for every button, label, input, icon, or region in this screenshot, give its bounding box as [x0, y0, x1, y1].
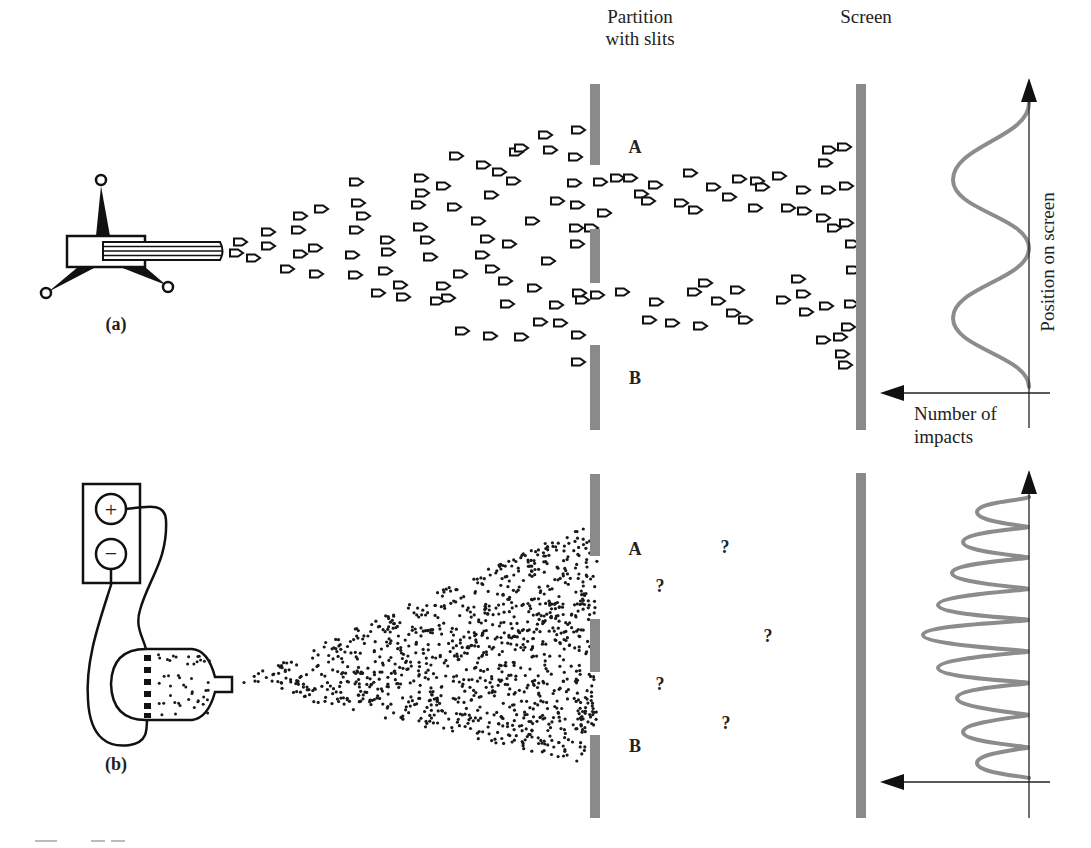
bullet-icon: [819, 160, 832, 167]
bullet-icon: [727, 310, 740, 317]
electron-gun-icon: [111, 649, 232, 720]
minus-icon: −: [105, 541, 117, 566]
battery-icon: + −: [83, 484, 140, 583]
bullet-icon: [635, 191, 648, 198]
slit-a-label: A: [629, 137, 642, 157]
bullet-icon: [349, 272, 362, 279]
bullet-icon: [773, 173, 786, 180]
bullet-icon: [262, 243, 275, 250]
bullet-icon: [571, 241, 584, 248]
bullet-icon: [421, 237, 434, 244]
bullet-icon: [554, 320, 567, 327]
bullet-icon: [412, 202, 425, 209]
bullet-icon: [394, 282, 407, 289]
bullet-icon: [503, 241, 516, 248]
bullet-icon: [817, 215, 830, 222]
screen-bar: [856, 473, 866, 818]
bullet-icon: [310, 271, 323, 278]
bullet-icon: [454, 271, 467, 278]
x-axis-label-line1: Number of: [914, 403, 998, 424]
bullet-icon: [352, 200, 365, 207]
partition-segment: [590, 345, 600, 430]
bullet-icon: [675, 200, 688, 207]
impact-distribution-b: [880, 470, 1050, 818]
question-mark: ?: [764, 626, 773, 646]
x-axis-label-line2: impacts: [914, 426, 973, 447]
bullet-icon: [572, 127, 585, 134]
bullet-icon: [723, 194, 736, 201]
y-axis-label: Position on screen: [1037, 192, 1058, 332]
bullet-icon: [515, 145, 528, 152]
bullet-icon: [357, 213, 370, 220]
bullet-icon: [591, 292, 604, 299]
bullet-icon: [817, 337, 830, 344]
bullet-icon: [372, 290, 385, 297]
screen-b: [856, 473, 866, 818]
bullet-icon: [477, 162, 490, 169]
bullet-icon: [712, 298, 725, 305]
bullet-icon: [842, 324, 855, 331]
bullet-icon: [281, 266, 294, 273]
bullet-icon: [568, 180, 581, 187]
bullet-icon: [572, 359, 585, 366]
bullet-icon: [643, 317, 656, 324]
partition-segment: [590, 735, 600, 818]
bullet-icon: [624, 175, 637, 182]
bullet-icon: [493, 169, 506, 176]
bullet-icon: [666, 320, 679, 327]
bullet-icon: [294, 213, 307, 220]
bullet-icon: [472, 218, 485, 225]
partition-with-slits-a: [590, 84, 600, 430]
bullet-icon: [550, 302, 563, 309]
bullet-icon: [777, 297, 790, 304]
bullet-icon: [573, 290, 586, 297]
question-mark: ?: [656, 576, 665, 596]
caption-fragment: [35, 840, 145, 848]
bullet-icon: [346, 252, 359, 259]
bullet-icon: [731, 287, 744, 294]
bullet-icon: [733, 176, 746, 183]
bullet-icon: [476, 252, 489, 259]
bullet-icon: [416, 190, 429, 197]
question-mark: ?: [721, 537, 730, 557]
arrow-up-icon: [1021, 78, 1037, 102]
bullet-icon: [437, 283, 450, 290]
bullet-icon: [542, 258, 555, 265]
screen-label: Screen: [840, 6, 892, 27]
bullet-icon: [756, 184, 769, 191]
slit-a-label-b: A: [629, 539, 642, 559]
bullet-icon: [840, 183, 853, 190]
bullet-icon: [230, 250, 243, 257]
bullet-icon: [526, 218, 539, 225]
bullet-icon: [234, 239, 247, 246]
bullet-icon: [437, 183, 450, 190]
bullet-icon: [570, 225, 583, 232]
bullet-icon: [481, 236, 494, 243]
bullet-icon: [379, 268, 392, 275]
slit-b-label: B: [629, 368, 641, 388]
bullet-icon: [515, 334, 528, 341]
electron-beam: [242, 527, 598, 762]
partition-label-line2: with slits: [605, 28, 674, 49]
bullet-icon: [650, 299, 663, 306]
partition-segment: [590, 474, 600, 556]
bullet-icon: [684, 170, 697, 177]
bullet-icon: [551, 198, 564, 205]
bullet-icon: [792, 276, 805, 283]
bullet-icon: [611, 175, 624, 182]
bullet-icon: [749, 205, 762, 212]
bullet-icon: [507, 178, 520, 185]
bullet-icon: [838, 144, 851, 151]
bullet-icon: [539, 132, 552, 139]
bullet-icon: [534, 319, 547, 326]
screen-a: [856, 84, 866, 430]
bullet-icon: [456, 328, 469, 335]
bullet-icon: [528, 285, 541, 292]
bullets-group: [230, 127, 860, 369]
question-marks: ?????: [656, 537, 773, 733]
bullet-icon: [424, 254, 437, 261]
bullet-icon: [689, 207, 702, 214]
double-slit-diagram: Partition with slits Screen (a) A B: [0, 0, 1091, 848]
bullet-icon: [486, 266, 499, 273]
question-mark: ?: [722, 713, 731, 733]
